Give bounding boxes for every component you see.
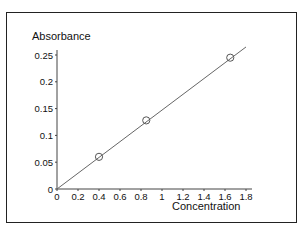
x-tick-label: 0.4 <box>92 191 105 202</box>
x-tick-label: 1.8 <box>239 191 252 202</box>
x-tick-label: 1.4 <box>197 191 210 202</box>
x-tick-label: 0.2 <box>71 191 84 202</box>
x-tick-label: 0.8 <box>134 191 147 202</box>
plot-area: 00.050.10.150.20.2500.20.40.60.811.21.41… <box>0 0 304 233</box>
y-tick-label: 0.1 <box>40 130 53 141</box>
data-point-marker <box>227 54 234 61</box>
y-tick-label: 0.25 <box>35 50 54 61</box>
y-tick-label: 0 <box>48 184 53 195</box>
x-tick-label: 0 <box>54 191 59 202</box>
y-tick-label: 0.15 <box>35 103 54 114</box>
x-tick-label: 1.6 <box>218 191 231 202</box>
x-tick-label: 0.6 <box>113 191 126 202</box>
x-tick-label: 1 <box>159 191 164 202</box>
y-tick-label: 0.05 <box>35 157 54 168</box>
x-tick-label: 1.2 <box>176 191 189 202</box>
fit-line <box>57 47 246 189</box>
y-tick-label: 0.2 <box>40 76 53 87</box>
